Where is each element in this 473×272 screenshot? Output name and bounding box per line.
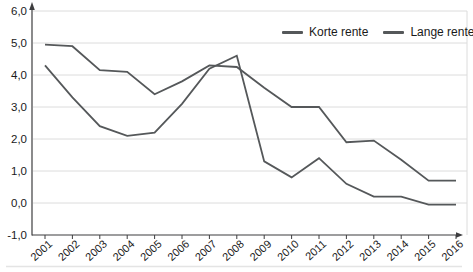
x-axis-tick-label: 2016 [439, 238, 465, 263]
y-axis-tick-label: 2,0 [11, 133, 27, 145]
y-axis-tick-label: 3,0 [11, 101, 27, 113]
chart-canvas: 2001200220032004200520062007200820092010… [0, 0, 473, 272]
y-axis-tick-label: 0,0 [11, 197, 27, 209]
x-axis-tick-label: 2007 [193, 238, 219, 263]
x-axis-tick-label: 2014 [384, 238, 410, 263]
y-axis-tick-label: 6,0 [11, 5, 27, 17]
lange-rente-line-swatch [383, 31, 404, 34]
x-axis-tick-label: 2008 [220, 238, 246, 263]
series-line-lange-rente [45, 45, 456, 181]
x-axis-tick-label: 2001 [28, 238, 54, 263]
x-axis-tick-label: 2003 [83, 238, 109, 263]
x-axis-tick-label: 2015 [412, 238, 438, 263]
x-axis-tick-label: 2002 [56, 238, 82, 263]
y-axis-arrow-icon [29, 2, 35, 10]
x-axis-tick-label: 2011 [303, 238, 329, 263]
interest-rate-line-chart: 2001200220032004200520062007200820092010… [0, 0, 473, 272]
x-axis-tick-label: 2005 [138, 238, 164, 263]
lange-rente-legend-label: Lange rente [410, 25, 473, 39]
legend-item-lange-rente: Lange rente [383, 25, 473, 39]
y-axis-tick-label: 1,0 [11, 165, 27, 177]
x-axis-tick-label: 2009 [247, 238, 273, 263]
y-axis-tick-label: 4,0 [11, 69, 27, 81]
korte-rente-line-swatch [282, 31, 303, 34]
x-axis-tick-label: 2006 [165, 238, 191, 263]
x-axis-tick-label: 2012 [330, 238, 356, 263]
y-axis-tick-label: -1,0 [7, 229, 27, 241]
x-axis-tick-label: 2004 [110, 238, 136, 263]
legend: Korte rente Lange rente [282, 25, 473, 39]
korte-rente-legend-label: Korte rente [309, 25, 368, 39]
x-axis-tick-label: 2013 [357, 238, 383, 263]
x-axis-arrow-icon [456, 232, 463, 238]
x-axis-tick-label: 2010 [275, 238, 301, 263]
y-axis-tick-label: 5,0 [11, 37, 27, 49]
legend-item-korte-rente: Korte rente [282, 25, 368, 39]
